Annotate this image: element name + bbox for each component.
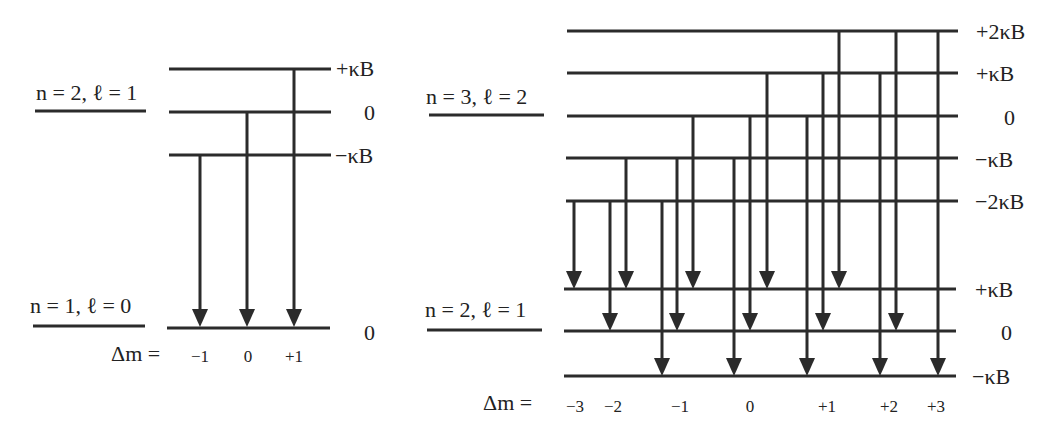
arrowhead-icon: [286, 309, 302, 327]
right-level-label-minus-2kB: −2κB: [975, 189, 1024, 214]
arrowhead-icon: [669, 313, 685, 331]
right-delta-m-label: +2: [880, 397, 898, 416]
right-delta-m-label: 0: [746, 397, 755, 416]
right-delta-m-label: +3: [927, 397, 945, 416]
left-transition-arrow: [239, 112, 255, 327]
left-delta-m-prefix: Δm =: [111, 341, 160, 366]
arrowhead-icon: [602, 313, 618, 331]
right-lower-level-label-plus-kB: +κB: [975, 277, 1013, 302]
right-transition-arrow: [831, 31, 847, 289]
left-delta-m-label: −1: [191, 347, 209, 366]
left-level-label-minus-kB: −κB: [335, 143, 373, 168]
arrowhead-icon: [566, 271, 582, 289]
right-lower-level-label-zero: 0: [1001, 320, 1012, 345]
arrowhead-icon: [930, 358, 946, 376]
arrowhead-icon: [815, 313, 831, 331]
right-lower-state-label: n = 2, ℓ = 1: [425, 297, 526, 322]
right-level-label-plus-kB: +κB: [976, 61, 1014, 86]
arrowhead-icon: [726, 358, 742, 376]
left-lower-state-label: n = 1, ℓ = 0: [30, 293, 131, 318]
right-delta-m-label: +1: [818, 397, 836, 416]
left-delta-m-label: +1: [285, 347, 303, 366]
right-level-label-zero: 0: [1004, 105, 1015, 130]
right-transition-arrow: [742, 116, 758, 331]
arrowhead-icon: [888, 313, 904, 331]
right-level-label-plus-2kB: +2κB: [976, 19, 1025, 44]
arrowhead-icon: [831, 271, 847, 289]
left-level-label-plus-kB: +κB: [336, 56, 374, 81]
arrowhead-icon: [872, 358, 888, 376]
right-transition-arrow: [669, 158, 685, 331]
arrowhead-icon: [759, 271, 775, 289]
right-transition-arrow: [759, 73, 775, 289]
right-transition-arrow: [930, 31, 946, 376]
right-delta-m-label: −3: [566, 397, 584, 416]
arrowhead-icon: [239, 309, 255, 327]
right-delta-m-prefix: Δm =: [483, 390, 532, 415]
left-delta-m-label: 0: [244, 347, 253, 366]
left-transition-arrow: [192, 155, 208, 327]
zeeman-splitting-diagram: n = 2, ℓ = 1 n = 1, ℓ = 0 +κB 0 −κB 0 Δm…: [0, 0, 1051, 434]
right-diagram: n = 3, ℓ = 2 n = 2, ℓ = 1 +2κB +κB 0 −κB…: [425, 19, 1025, 416]
right-transition-arrow: [888, 31, 904, 331]
right-transition-arrow: [602, 201, 618, 331]
arrowhead-icon: [618, 271, 634, 289]
right-lower-level-label-minus-kB: −κB: [972, 364, 1010, 389]
arrowhead-icon: [799, 358, 815, 376]
left-level-label-ground: 0: [364, 320, 375, 345]
right-transition-arrow: [618, 158, 634, 289]
right-delta-m-label: −2: [604, 397, 622, 416]
left-upper-state-label: n = 2, ℓ = 1: [36, 80, 137, 105]
right-transition-arrow: [566, 201, 582, 289]
right-transition-arrow: [726, 158, 742, 376]
arrowhead-icon: [685, 271, 701, 289]
right-delta-m-label: −1: [671, 397, 689, 416]
right-upper-state-label: n = 3, ℓ = 2: [426, 84, 527, 109]
left-diagram: n = 2, ℓ = 1 n = 1, ℓ = 0 +κB 0 −κB 0 Δm…: [30, 56, 375, 366]
right-level-label-minus-kB: −κB: [975, 147, 1013, 172]
arrowhead-icon: [742, 313, 758, 331]
right-transition-arrow: [799, 116, 815, 376]
left-transition-arrow: [286, 69, 302, 327]
arrowhead-icon: [192, 309, 208, 327]
left-level-label-zero: 0: [364, 100, 375, 125]
arrowhead-icon: [654, 358, 670, 376]
